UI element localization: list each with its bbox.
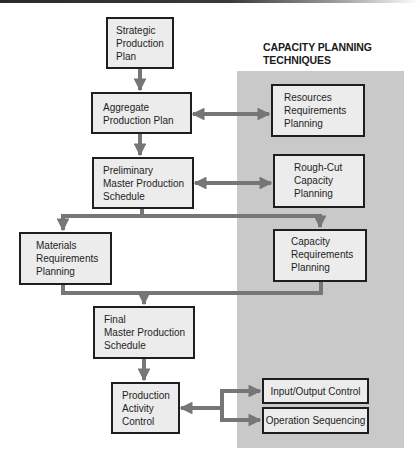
node-label-line: Planning bbox=[36, 265, 95, 278]
node-label-line: Materials bbox=[36, 239, 95, 252]
node-label-line: Rough-Cut bbox=[294, 161, 344, 174]
node-label-line: Production bbox=[122, 389, 169, 402]
node-label-line: Production Plan bbox=[103, 114, 180, 127]
node-operation-sequencing: Operation Sequencing bbox=[262, 407, 369, 434]
node-preliminary-master-production-schedule: Preliminary Master Production Schedule bbox=[92, 157, 194, 209]
node-label-line: Control bbox=[122, 415, 169, 428]
arrow-to-opseq bbox=[222, 408, 260, 420]
node-label-line: Aggregate bbox=[103, 101, 180, 114]
arrow-to-mrp bbox=[63, 216, 142, 230]
node-label-line: Schedule bbox=[103, 190, 183, 203]
arrow-to-io bbox=[222, 391, 260, 408]
node-production-activity-control: Production Activity Control bbox=[111, 382, 180, 434]
node-resources-requirements-planning: Resources Requirements Planning bbox=[271, 84, 365, 137]
node-label-line: Production bbox=[116, 37, 164, 50]
node-materials-requirements-planning: Materials Requirements Planning bbox=[19, 232, 112, 285]
node-aggregate-production-plan: Aggregate Production Plan bbox=[91, 92, 192, 134]
node-label-line: Master Production bbox=[104, 326, 184, 339]
arrow-crp-merge bbox=[144, 281, 321, 293]
node-label-line: Planning bbox=[284, 117, 352, 130]
node-label-line: Capacity bbox=[291, 235, 349, 248]
node-capacity-requirements-planning: Capacity Requirements Planning bbox=[273, 229, 367, 282]
node-label-line: Planning bbox=[291, 261, 349, 274]
node-label-line: Activity bbox=[122, 402, 169, 415]
node-strategic-production-plan: Strategic Production Plan bbox=[106, 17, 174, 69]
node-label-line: Capacity bbox=[294, 174, 344, 187]
node-label-line: Input/Output Control bbox=[270, 385, 360, 398]
node-label-line: Master Production bbox=[103, 177, 183, 190]
node-label-line: Strategic bbox=[116, 24, 164, 37]
node-label-line: Plan bbox=[116, 50, 164, 63]
arrow-to-crp bbox=[142, 216, 320, 227]
node-label-line: Final bbox=[104, 313, 184, 326]
node-rough-cut-capacity-planning: Rough-Cut Capacity Planning bbox=[273, 154, 365, 208]
node-label-line: Resources bbox=[284, 91, 352, 104]
node-label-line: Preliminary bbox=[103, 164, 183, 177]
node-final-master-production-schedule: Final Master Production Schedule bbox=[93, 306, 195, 359]
arrow-mrp-merge bbox=[63, 284, 144, 293]
node-label-line: Requirements bbox=[36, 252, 95, 265]
node-label-line: Operation Sequencing bbox=[266, 414, 366, 427]
node-input-output-control: Input/Output Control bbox=[262, 378, 369, 404]
node-label-line: Requirements bbox=[291, 248, 349, 261]
node-label-line: Requirements bbox=[284, 104, 352, 117]
node-label-line: Planning bbox=[294, 187, 344, 200]
node-label-line: Schedule bbox=[104, 339, 184, 352]
